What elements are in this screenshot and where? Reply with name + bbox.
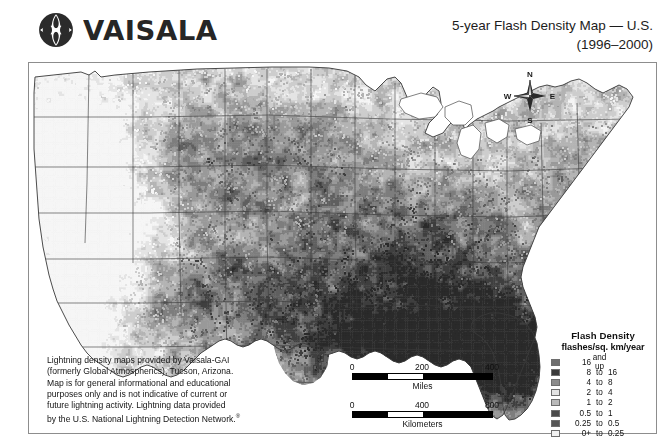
scale-seg [423, 412, 458, 417]
legend-range-from: 0+ [565, 429, 591, 438]
legend-rows: 16and up8to164to82to41to20.5to10.25to0.5… [551, 357, 665, 439]
legend-range-upper: 0.25 [608, 429, 634, 438]
caption-line-5: future lightning activity. Lightning dat… [47, 400, 309, 411]
scale-km-tick-2: 800 [485, 400, 499, 410]
scale-kilometers-ticks: 0 400 800 [352, 400, 502, 411]
vaisala-brand: VAISALA [38, 12, 215, 48]
legend-range-connector: to [591, 409, 608, 418]
legend-range-from: 0.25 [565, 419, 591, 428]
legend-range-connector: to [591, 398, 608, 407]
legend-row: 8to16 [551, 367, 665, 377]
map-scale-bars: 0 200 400 Miles 0 400 800 Kilometers [352, 362, 502, 438]
legend-color-swatch [551, 430, 560, 437]
legend-color-swatch [551, 420, 560, 427]
legend-range-upper: 8 [608, 378, 634, 387]
legend-color-swatch [551, 369, 560, 376]
vaisala-wordmark: VAISALA [83, 17, 218, 44]
legend-color-swatch [551, 410, 560, 417]
page-header: VAISALA 5-year Flash Density Map — U.S. … [0, 0, 667, 56]
legend-range-connector: to [591, 419, 608, 428]
caption-line-2: (formerly Global Atmospherics), Tucson, … [47, 366, 309, 377]
scale-seg [423, 374, 458, 379]
legend-row: 16and up [551, 357, 665, 367]
vaisala-logo-icon [38, 12, 74, 48]
scale-seg [457, 374, 492, 379]
legend-row: 0.5to1 [551, 408, 665, 418]
legend-range-connector: to [591, 378, 608, 387]
legend-range-from: 16 [565, 358, 591, 367]
caption-line-6: by the U.S. National Lightning Detection… [47, 411, 309, 425]
title-line-2: (1996–2000) [452, 35, 653, 54]
scale-miles-tick-0: 0 [350, 362, 355, 372]
map-caption: Lightning density maps provided by Vaisa… [47, 355, 309, 426]
scale-miles-tick-2: 400 [485, 362, 499, 372]
scale-kilometers-bar [352, 411, 493, 418]
legend-range-upper: 2 [608, 398, 634, 407]
scale-km-tick-1: 400 [415, 400, 429, 410]
compass-west-label: W [504, 92, 512, 101]
legend-range-upper: 1 [608, 409, 634, 418]
compass-south-label: S [527, 116, 533, 125]
legend-color-swatch [551, 389, 560, 396]
caption-line-1: Lightning density maps provided by Vaisa… [47, 355, 309, 366]
scale-seg [353, 374, 388, 379]
legend-color-swatch [551, 379, 560, 386]
scale-seg [388, 374, 423, 379]
scale-seg [388, 412, 423, 417]
registered-trademark-mark: ® [236, 413, 240, 419]
legend-row: 1to2 [551, 398, 665, 408]
legend-row: 0+to0.25 [551, 428, 665, 438]
scale-miles-label: Miles [352, 381, 493, 391]
scale-miles-ticks: 0 200 400 [352, 362, 502, 373]
legend-range-upper: 16 [608, 368, 634, 377]
legend-color-swatch [551, 359, 560, 366]
legend-row: 2to4 [551, 388, 665, 398]
legend-range-upper: 0.5 [608, 419, 634, 428]
page-title: 5-year Flash Density Map — U.S. (1996–20… [452, 16, 653, 54]
legend-range-connector: to [591, 429, 608, 438]
scale-seg [457, 412, 492, 417]
compass-north-label: N [527, 70, 533, 79]
scale-miles-tick-1: 200 [415, 362, 429, 372]
flash-density-legend: Flash Density flashes/sq. km/year 16and … [541, 330, 665, 439]
legend-range-from: 1 [565, 398, 591, 407]
scale-seg [353, 412, 388, 417]
caption-line-4: purposes only and is not indicative of c… [47, 389, 309, 400]
legend-color-swatch [551, 399, 560, 406]
title-line-1: 5-year Flash Density Map — U.S. [452, 16, 653, 35]
scale-miles-bar [352, 373, 493, 380]
legend-range-from: 2 [565, 388, 591, 397]
scale-bar-miles: 0 200 400 Miles [352, 362, 502, 391]
legend-range-from: 0.5 [565, 409, 591, 418]
legend-range-from: 8 [565, 368, 591, 377]
legend-row: 0.25to0.5 [551, 418, 665, 428]
legend-range-upper: 4 [608, 388, 634, 397]
legend-subtitle: flashes/sq. km/year [541, 342, 665, 352]
compass-east-label: E [550, 92, 556, 101]
caption-line-3: Map is for general informational and edu… [47, 378, 309, 389]
legend-title: Flash Density [541, 330, 665, 341]
scale-bar-kilometers: 0 400 800 Kilometers [352, 400, 502, 429]
legend-range-connector: to [591, 388, 608, 397]
caption-line-6-text: by the U.S. National Lightning Detection… [47, 414, 236, 424]
compass-rose-icon: N S E W [498, 64, 562, 128]
legend-row: 4to8 [551, 377, 665, 387]
scale-km-tick-0: 0 [350, 400, 355, 410]
legend-range-from: 4 [565, 378, 591, 387]
scale-kilometers-label: Kilometers [352, 419, 493, 429]
legend-range-connector: to [591, 368, 608, 377]
